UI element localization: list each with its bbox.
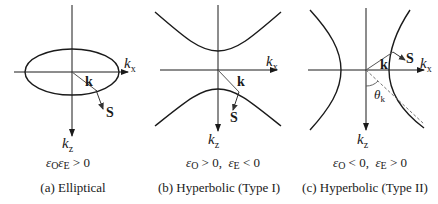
wave-vector-label: k (237, 75, 245, 89)
panel-c-hyperbolic-type-2 (308, 8, 424, 130)
poynting-vector-s (233, 92, 239, 110)
wave-vector-label: k (85, 75, 93, 89)
condition-c: εO < 0, εE > 0 (333, 156, 407, 169)
kz-axis-label: kz (357, 132, 368, 147)
caption-a: (a) Elliptical (0, 181, 146, 194)
poynting-vector-s (96, 90, 103, 109)
caption-b: (b) Hyperbolic (Type I) (146, 181, 292, 194)
panel-b-hyperbolic-type-1 (155, 5, 281, 131)
right-hyperbola-branch (389, 10, 424, 128)
kz-axis-label: kz (62, 136, 73, 151)
theta-k-arc (366, 81, 378, 86)
theta-k-label: θk (374, 88, 385, 101)
kx-axis-label: kx (266, 54, 278, 69)
poynting-vector-label: S (406, 52, 414, 66)
kx-axis-label: kx (124, 56, 136, 71)
kx-axis-label: kx (420, 56, 432, 71)
iso-frequency-contours-figure: kx kz k S εOεE > 0 (a) Elliptical kx kz … (0, 0, 438, 204)
wave-vector-label: k (380, 58, 388, 72)
caption-c: (c) Hyperbolic (Type II) (292, 181, 438, 194)
condition-b: εO > 0, εE < 0 (186, 156, 260, 169)
poynting-vector-label: S (230, 111, 238, 125)
poynting-vector-label: S (106, 106, 114, 120)
condition-a: εOεE > 0 (46, 156, 90, 169)
kz-axis-label: kz (208, 132, 219, 147)
poynting-vector-s (393, 52, 405, 60)
